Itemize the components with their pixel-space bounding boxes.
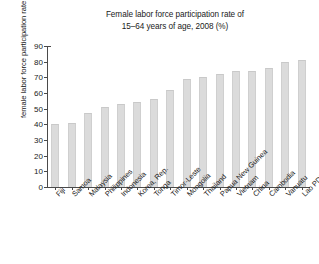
y-tick-mark <box>44 187 47 188</box>
y-tick-mark <box>44 124 47 125</box>
bar <box>51 124 59 187</box>
y-tick-mark <box>44 62 47 63</box>
y-tick-label: 90 <box>34 42 43 51</box>
y-tick-label: 0 <box>39 183 43 192</box>
chart-figure: Female labor force participation rate of… <box>0 0 319 264</box>
chart-title-line-1: Female labor force participation rate of <box>55 9 295 21</box>
y-tick-mark <box>44 46 47 47</box>
y-tick-mark <box>44 171 47 172</box>
y-tick-mark <box>44 156 47 157</box>
y-tick-label: 20 <box>34 151 43 160</box>
y-axis-line <box>47 46 48 187</box>
bar <box>265 68 273 187</box>
y-tick-mark <box>44 140 47 141</box>
y-tick-label: 10 <box>34 167 43 176</box>
bar <box>281 62 289 187</box>
y-axis-top-cap <box>47 46 51 47</box>
y-tick-label: 50 <box>34 104 43 113</box>
y-tick-label: 40 <box>34 120 43 129</box>
y-tick-mark <box>44 77 47 78</box>
bar <box>216 74 224 187</box>
plot-area: 0102030405060708090 FijiSamoaMalaysiaPhi… <box>47 46 310 187</box>
y-tick-label: 60 <box>34 89 43 98</box>
y-tick-mark <box>44 93 47 94</box>
chart-title-line-2: 15–64 years of age, 2008 (%) <box>55 21 295 33</box>
y-axis-title: female labor force participation rate (%… <box>19 0 28 124</box>
chart-title: Female labor force participation rate of… <box>55 9 295 32</box>
y-tick-label: 30 <box>34 136 43 145</box>
bar <box>298 60 306 187</box>
y-tick-label: 70 <box>34 73 43 82</box>
bar <box>68 123 76 187</box>
y-tick-label: 80 <box>34 57 43 66</box>
y-tick-mark <box>44 109 47 110</box>
